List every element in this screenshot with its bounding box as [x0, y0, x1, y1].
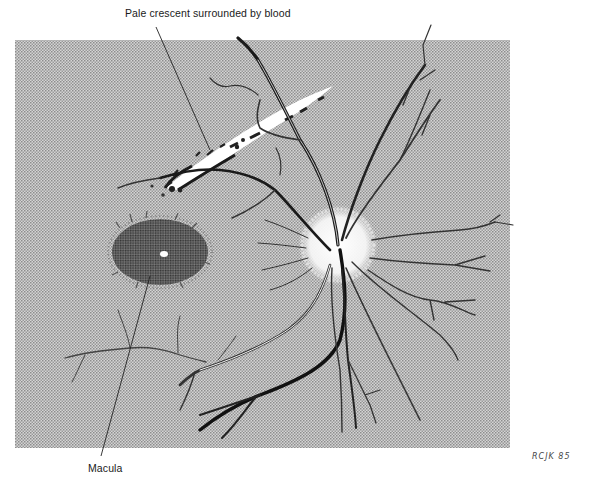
retina-illustration: [0, 0, 593, 486]
fundus-background: [15, 40, 510, 448]
